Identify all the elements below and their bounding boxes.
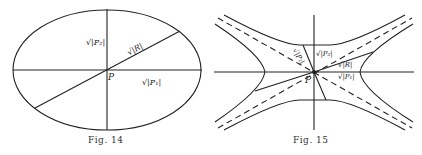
label-sqrt-p1: √|P₁| bbox=[142, 78, 161, 87]
left-hyperbola bbox=[215, 24, 265, 122]
label-right-upper: √|R| bbox=[338, 61, 352, 69]
point-p-marker bbox=[312, 70, 316, 74]
right-hyperbola bbox=[360, 24, 413, 122]
label-upper-left: √|P₂| bbox=[291, 47, 306, 65]
radius-lower-right bbox=[314, 72, 326, 100]
label-point-p: P bbox=[107, 72, 115, 82]
figure-14 bbox=[13, 9, 202, 130]
label-upper-vertical: √|P₂| bbox=[316, 50, 333, 58]
label-sqrt-p2: √|P₂| bbox=[86, 38, 105, 47]
label-right-lower: √|P₁| bbox=[338, 73, 355, 81]
label-point-p: P bbox=[304, 75, 312, 85]
caption-fig-15: Fig. 15 bbox=[293, 135, 329, 145]
figures-canvas: √|P₂| √|R| √|P₁| P Fig. 14 √|P₂| √|P₂| √… bbox=[0, 0, 422, 155]
caption-fig-14: Fig. 14 bbox=[88, 135, 124, 145]
